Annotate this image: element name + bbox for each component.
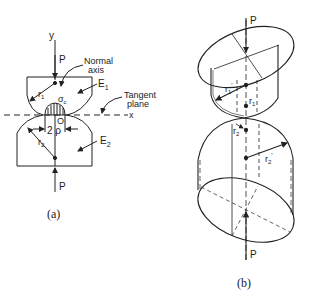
load-top-label-b: P bbox=[250, 15, 257, 26]
load-bottom-label-b: P bbox=[250, 249, 257, 260]
r2-prime-label: r2' bbox=[265, 152, 273, 165]
tangent-plane-leader bbox=[102, 97, 122, 113]
normal-axis-leader bbox=[61, 65, 83, 86]
r2-label-b: r2 bbox=[233, 126, 240, 137]
e2-leader bbox=[78, 141, 97, 151]
figure-a-labels: y P Normal axis E1 Tangent plane x r1 σc… bbox=[38, 30, 157, 221]
caption-b: (b) bbox=[237, 276, 251, 290]
load-top-label: P bbox=[59, 54, 66, 65]
lower-body-outline bbox=[198, 118, 293, 215]
r1-prime-label: r1' bbox=[225, 82, 233, 95]
tangent-plane-label-2: plane bbox=[127, 99, 149, 109]
r2-label: r2 bbox=[38, 137, 45, 148]
y-axis-label: y bbox=[49, 30, 54, 41]
e1-leader bbox=[78, 84, 97, 93]
e2-label: E2 bbox=[100, 135, 111, 148]
normal-axis-label-2: axis bbox=[88, 65, 105, 75]
two-rho-label: 2 ρ bbox=[47, 125, 61, 136]
load-bottom-label: P bbox=[59, 181, 66, 192]
x-axis-label: x bbox=[129, 110, 134, 120]
figure-b bbox=[189, 15, 303, 262]
sigma-c-label: σc bbox=[58, 94, 67, 105]
caption-a: (a) bbox=[47, 207, 60, 221]
contact-stress-diagram: y P Normal axis E1 Tangent plane x r1 σc… bbox=[0, 0, 310, 299]
r1-label-b: r1 bbox=[249, 96, 256, 107]
e1-label: E1 bbox=[98, 78, 109, 91]
